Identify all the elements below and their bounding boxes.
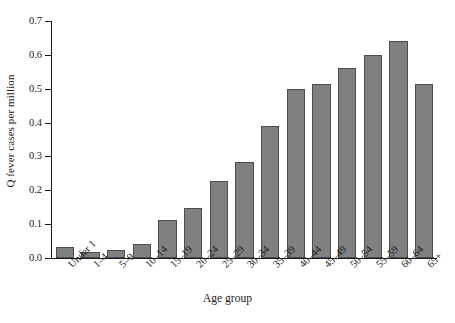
y-axis-tick: 0.6 xyxy=(45,55,51,56)
y-axis-tick-label: 0.2 xyxy=(29,183,42,196)
chart-figure: Q fever cases per million 0.00.10.20.30.… xyxy=(0,0,455,323)
bar xyxy=(338,68,356,258)
y-axis-tick-label: 0.6 xyxy=(29,48,42,61)
y-axis-tick: 0.0 xyxy=(45,258,51,259)
y-axis-tick: 0.1 xyxy=(45,224,51,225)
plot-area: 0.00.10.20.30.40.50.60.7 xyxy=(51,21,437,259)
bar xyxy=(415,84,433,258)
y-axis-tick: 0.7 xyxy=(45,21,51,22)
y-axis-tick: 0.5 xyxy=(45,89,51,90)
y-axis-title: Q fever cases per million xyxy=(0,0,20,262)
y-axis-tick-label: 0.5 xyxy=(29,82,42,95)
y-axis-tick-label: 0.4 xyxy=(29,116,42,129)
y-axis-tick-label: 0.7 xyxy=(29,14,42,27)
y-axis-title-text: Q fever cases per million xyxy=(4,74,16,187)
y-axis-tick-label: 0.3 xyxy=(29,149,42,162)
y-axis-tick: 0.3 xyxy=(45,156,51,157)
bar xyxy=(287,89,305,258)
bar xyxy=(389,41,407,258)
y-axis-tick-label: 0.0 xyxy=(29,251,42,264)
bar xyxy=(312,84,330,258)
bar xyxy=(364,55,382,258)
bar xyxy=(261,126,279,258)
y-axis-tick: 0.2 xyxy=(45,190,51,191)
x-axis-title-text: Age group xyxy=(203,292,252,304)
y-axis-tick: 0.4 xyxy=(45,123,51,124)
x-axis-title: Age group xyxy=(0,292,455,304)
y-axis-tick-label: 0.1 xyxy=(29,217,42,230)
bar-series xyxy=(52,21,437,259)
